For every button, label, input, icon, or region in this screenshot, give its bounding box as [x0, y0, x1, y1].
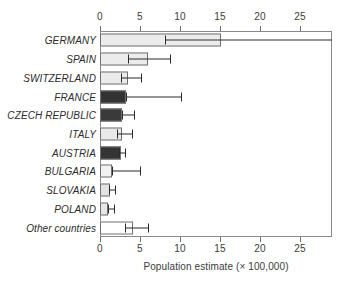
error-bar-cap-high	[140, 167, 141, 176]
error-bar	[112, 171, 140, 172]
error-bar-cap-high	[148, 223, 149, 232]
axis-tick-label: 0	[97, 11, 103, 22]
error-bar	[165, 40, 332, 41]
axis-tick-label: 5	[137, 243, 143, 254]
bar	[100, 90, 126, 103]
error-bar-cap-low	[119, 148, 120, 157]
category-label: BULGARIA	[45, 166, 96, 177]
error-bar-cap-low	[108, 204, 109, 213]
population-bar-chart: 0510152025 0510152025 GERMANYSPAINSWITZE…	[0, 0, 352, 288]
bar	[100, 146, 121, 159]
axis-tick-label: 5	[137, 11, 143, 22]
axis-tick-label: 15	[214, 11, 226, 22]
error-bar-cap-low	[121, 73, 122, 82]
axis-tick	[220, 237, 221, 242]
bar-row: SLOVAKIA	[0, 181, 352, 200]
category-label: ITALY	[69, 128, 96, 139]
axis-tick	[300, 237, 301, 242]
error-bar	[125, 227, 148, 228]
axis-tick-label: 25	[294, 11, 306, 22]
error-bar-cap-high	[134, 111, 135, 120]
axis-tick	[180, 237, 181, 242]
bar	[100, 109, 122, 122]
error-bar-cap-low	[122, 111, 123, 120]
bar	[100, 202, 108, 215]
category-label: CZECH REPUBLIC	[7, 110, 96, 121]
axis-tick-label: 10	[174, 11, 186, 22]
error-bar	[128, 59, 170, 60]
category-label: GERMANY	[45, 35, 96, 46]
error-bar-cap-low	[165, 36, 166, 45]
axis-tick	[260, 237, 261, 242]
error-bar-cap-low	[128, 55, 129, 64]
error-bar	[117, 133, 132, 134]
bar-row: SPAIN	[0, 50, 352, 69]
category-label: AUSTRIA	[52, 147, 96, 158]
x-axis-title: Population estimate (× 100,000)	[100, 261, 332, 272]
axis-tick-label: 0	[97, 243, 103, 254]
error-bar-cap-high	[170, 55, 171, 64]
error-bar-cap-low	[125, 223, 126, 232]
bar-row: CZECH REPUBLIC	[0, 106, 352, 125]
error-bar-cap-high	[181, 92, 182, 101]
error-bar	[121, 77, 141, 78]
error-bar-cap-low	[126, 92, 127, 101]
category-label: SWITZERLAND	[23, 72, 96, 83]
axis-tick-label: 15	[214, 243, 226, 254]
error-bar-cap-low	[117, 129, 118, 138]
axis-tick-label: 20	[254, 243, 266, 254]
axis-tick-label: 20	[254, 11, 266, 22]
error-bar	[122, 115, 133, 116]
category-label: Other countries	[26, 222, 96, 233]
category-label: FRANCE	[54, 91, 96, 102]
bar-row: POLAND	[0, 200, 352, 219]
error-bar-cap-high	[141, 73, 142, 82]
bar-row: GERMANY	[0, 31, 352, 50]
category-label: POLAND	[54, 203, 96, 214]
error-bar-cap-high	[115, 186, 116, 195]
axis-tick	[140, 237, 141, 242]
axis-tick	[100, 237, 101, 242]
bar-row: ITALY	[0, 125, 352, 144]
bar	[100, 165, 112, 178]
bar-row: SWITZERLAND	[0, 68, 352, 87]
error-bar-cap-high	[114, 204, 115, 213]
bar-rows: GERMANYSPAINSWITZERLANDFRANCECZECH REPUB…	[0, 31, 352, 237]
error-bar-cap-high	[132, 129, 133, 138]
bar-row: BULGARIA	[0, 162, 352, 181]
bar-row: AUSTRIA	[0, 143, 352, 162]
error-bar-cap-low	[109, 186, 110, 195]
category-label: SPAIN	[66, 54, 96, 65]
category-label: SLOVAKIA	[46, 185, 96, 196]
error-bar	[126, 96, 180, 97]
bar-row: FRANCE	[0, 87, 352, 106]
bar-row: Other countries	[0, 218, 352, 237]
error-bar-cap-high	[125, 148, 126, 157]
axis-tick-label: 10	[174, 243, 186, 254]
axis-tick-label: 25	[294, 243, 306, 254]
error-bar-cap-low	[112, 167, 113, 176]
